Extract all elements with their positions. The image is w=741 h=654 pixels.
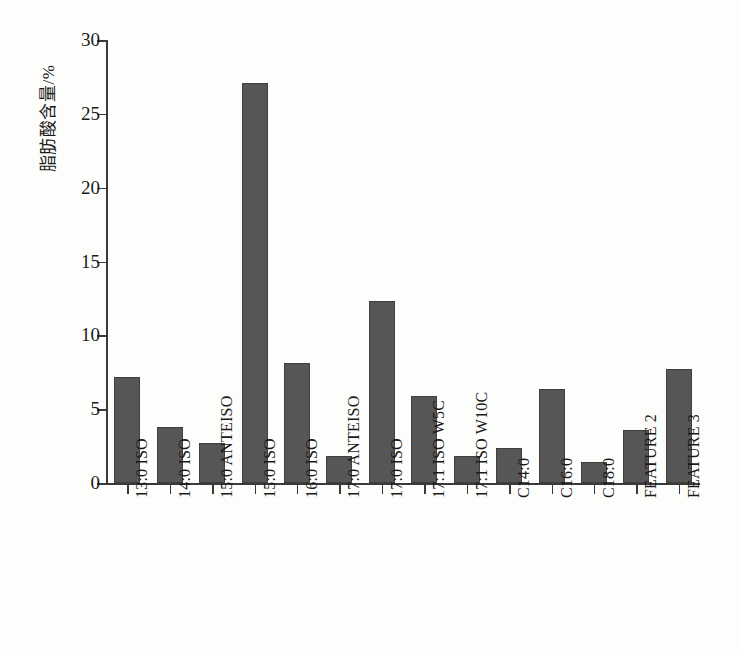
x-tick-mark bbox=[467, 484, 469, 494]
x-tick-label: 15:0 ISO bbox=[261, 438, 278, 498]
y-axis-label: 脂肪酸含量/% bbox=[38, 0, 60, 172]
y-tick-label: 0 bbox=[91, 472, 101, 494]
x-tick-label: 17:1 ISO W10C bbox=[473, 392, 490, 498]
y-tick-label: 5 bbox=[91, 398, 101, 420]
x-tick-mark bbox=[552, 484, 554, 494]
x-tick-mark bbox=[594, 484, 596, 494]
x-tick-mark bbox=[509, 484, 511, 494]
x-tick-mark bbox=[297, 484, 299, 494]
fatty-acid-bar-chart: 脂肪酸含量/% 051015202530 13:0 ISO14:0 ISO15:… bbox=[0, 0, 741, 654]
x-axis-label-group: 13:0 ISO14:0 ISO15:0 ANTEISO15:0 ISO16:0… bbox=[106, 498, 700, 648]
x-tick-label: 17:1 ISO W5C bbox=[430, 400, 447, 498]
x-tick-label: 17:0 ISO bbox=[388, 438, 405, 498]
y-tick-label: 25 bbox=[81, 103, 100, 125]
x-tick-mark bbox=[212, 484, 214, 494]
x-tick-label: C18:0 bbox=[600, 458, 617, 498]
x-tick-label: 16:0 ISO bbox=[303, 438, 320, 498]
x-tick-label: C16:0 bbox=[558, 458, 575, 498]
x-tick-label: C14:0 bbox=[515, 458, 532, 498]
y-tick-label: 30 bbox=[81, 29, 100, 51]
y-tick-label: 10 bbox=[81, 324, 100, 346]
x-tick-mark bbox=[382, 484, 384, 494]
x-tick-mark bbox=[339, 484, 341, 494]
y-tick-label: 15 bbox=[81, 251, 100, 273]
x-tick-label: 14:0 ISO bbox=[176, 438, 193, 498]
x-tick-label: 17:0 ANTEISO bbox=[345, 396, 362, 498]
x-tick-mark bbox=[424, 484, 426, 494]
x-tick-mark bbox=[170, 484, 172, 494]
x-tick-mark bbox=[636, 484, 638, 494]
x-tick-label: FEATURE 3 bbox=[685, 414, 702, 498]
x-tick-mark bbox=[127, 484, 129, 494]
x-tick-mark bbox=[679, 484, 681, 494]
y-tick-label: 20 bbox=[81, 177, 100, 199]
x-tick-mark bbox=[255, 484, 257, 494]
y-axis-line bbox=[106, 40, 108, 483]
bar bbox=[242, 83, 268, 483]
x-tick-label: FEATURE 2 bbox=[642, 414, 659, 498]
plot-area: 051015202530 bbox=[106, 40, 700, 483]
x-tick-label: 13:0 ISO bbox=[133, 438, 150, 498]
x-tick-label: 15:0 ANTEISO bbox=[218, 396, 235, 498]
